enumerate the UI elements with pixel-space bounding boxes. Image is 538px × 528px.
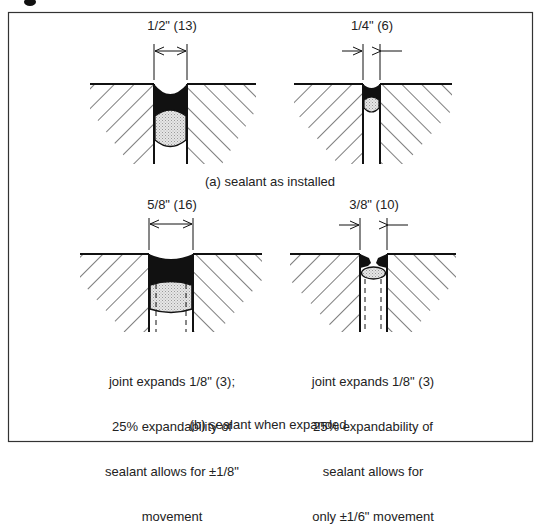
note-b-left: joint expands 1/8" (3); 25% expandabilit… [105, 344, 239, 528]
note-b-left-line: joint expands 1/8" (3); [105, 374, 239, 389]
dimension-label-a-left: 1/2" (13) [147, 18, 196, 33]
note-b-left-line: sealant allows for ±1/8" [105, 464, 239, 479]
note-b-right: joint expands 1/8" (3) 25% expandability… [312, 344, 434, 528]
joint-a-right [294, 44, 452, 164]
joint-b-right [290, 218, 456, 332]
figure-frame [9, 13, 533, 442]
note-b-right-line: joint expands 1/8" (3) [312, 374, 434, 389]
joint-b-left [80, 218, 262, 332]
cropped-heading-mark [24, 0, 36, 6]
dimension-label-b-right: 3/8" (10) [349, 197, 398, 212]
note-b-left-line: movement [105, 509, 239, 524]
caption-sealant-when-expanded: (b) sealant when expanded [190, 417, 347, 432]
note-b-right-line: only ±1/6" movement [312, 509, 434, 524]
dimension-label-b-left: 5/8" (16) [147, 197, 196, 212]
note-b-right-line: sealant allows for [312, 464, 434, 479]
dimension-label-a-right: 1/4" (6) [351, 18, 393, 33]
caption-sealant-as-installed: (a) sealant as installed [205, 174, 335, 189]
joint-a-left [90, 44, 256, 164]
